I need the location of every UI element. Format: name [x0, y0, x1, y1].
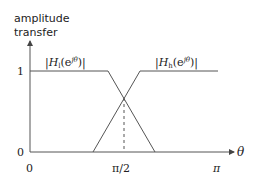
- x-axis-theta-symbol: θ: [237, 145, 245, 159]
- amplitude-transfer-diagram: amplitude transfer 1 0 0 π/2 π θ |Hl(ejθ…: [0, 0, 254, 179]
- x-tick-half-pi: π/2: [112, 162, 130, 175]
- lowpass-label: |Hl(ejθ)|: [45, 56, 86, 70]
- diagram-canvas: amplitude transfer 1 0 0 π/2 π θ |Hl(ejθ…: [0, 0, 254, 179]
- y-tick-one: 1: [17, 65, 24, 78]
- y-axis-label-line1: amplitude: [14, 12, 70, 25]
- highpass-curve: [93, 71, 218, 152]
- lowpass-curve: [30, 71, 155, 152]
- highpass-label: |Hh(ejθ)|: [155, 56, 198, 70]
- y-axis-label-line2: transfer: [14, 26, 58, 39]
- x-tick-pi: π: [212, 162, 221, 175]
- x-tick-zero: 0: [26, 162, 33, 175]
- y-tick-zero: 0: [17, 146, 24, 159]
